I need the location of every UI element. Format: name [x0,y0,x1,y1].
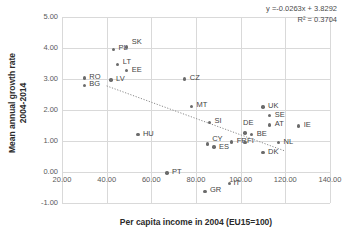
data-point-de [243,131,246,134]
data-point-hu [136,133,139,136]
y-tick-label: 1.00 [18,136,58,145]
data-point-label-ie: IE [304,120,311,129]
data-point-ro [83,76,86,79]
data-point-fr [230,140,233,143]
data-point-label-es: ES [219,142,229,151]
x-tick-label: 100.00 [219,175,263,184]
data-point-es [212,145,215,148]
x-tick-label: 60.00 [129,175,173,184]
gridline-horizontal [62,203,330,204]
data-point-label-hu: HU [143,129,154,138]
data-point-label-fi: FI [247,136,254,145]
x-tick-label: 80.00 [174,175,218,184]
y-tick-label: 4.00 [18,43,58,52]
x-tick-label: 40.00 [85,175,129,184]
data-point-label-se: SE [275,110,285,119]
data-point-label-ee: EE [132,65,142,74]
y-tick-label: 5.00 [18,12,58,21]
data-point-label-be: BE [257,129,267,138]
x-axis-title: Per capita income in 2004 (EU15=100) [62,217,330,227]
data-point-gr [203,190,206,193]
data-point-label-lv: LV [116,74,125,83]
y-tick-label: 3.00 [18,74,58,83]
data-point-label-gr: GR [210,185,221,194]
data-point-label-bg: BG [89,79,100,88]
data-point-bg [83,84,86,87]
data-point-label-lt: LT [123,57,131,66]
data-point-label-mt: MT [197,100,208,109]
regression-annotation: y =-0.0263x + 3.8292 R² = 0.3704 [266,3,337,25]
r-squared-value: R² = 0.3704 [266,14,337,25]
data-point-label-at: AT [275,119,284,128]
x-tick-label: 20.00 [40,175,84,184]
data-point-label-si: SI [214,116,221,125]
data-point-label-sk: SK [132,37,142,46]
data-point-label-de: DE [243,118,253,127]
data-point-uk [261,105,264,108]
data-point-dk [261,151,264,154]
data-point-cy [206,142,209,145]
y-tick-label: 2.00 [18,105,58,114]
data-point-at [268,123,271,126]
y-axis-title: Mean annual growth rate 2004-2014 [7,33,29,173]
data-point-lv [109,78,112,81]
trendline-segment [107,86,286,151]
x-tick-label: 120.00 [263,175,307,184]
regression-equation: y =-0.0263x + 3.8292 [266,3,337,14]
data-point-label-cz: CZ [190,73,200,82]
data-point-label-uk: UK [268,101,278,110]
data-point-label-nl: NL [284,137,294,146]
scatter-chart: Mean annual growth rate 2004-2014 PLSKLT… [0,0,351,237]
y-tick-label: -1.00 [18,198,58,207]
data-point-label-dk: DK [268,147,278,156]
x-tick-label: 140.00 [308,175,351,184]
